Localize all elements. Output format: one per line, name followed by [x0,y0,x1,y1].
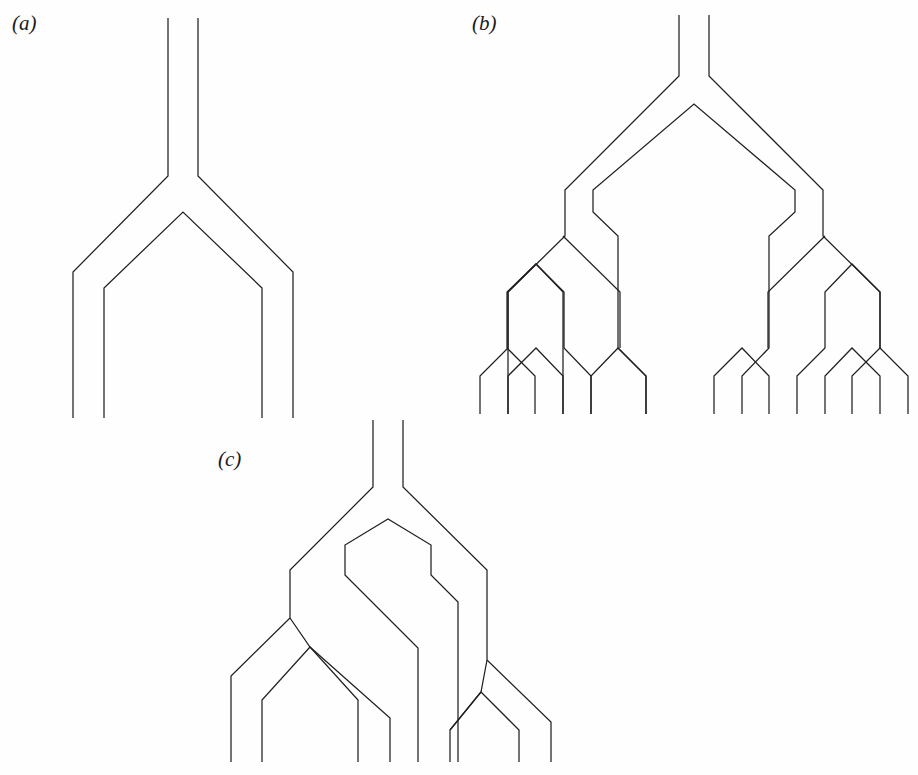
panel-label-c: (c) [218,447,241,471]
panel-b-gen1-inner-crotch [593,104,795,414]
panel-b-right-gen2-arch [797,264,880,414]
panel-c [231,420,551,762]
panel-label-b: (b) [472,11,497,35]
panel-c-left-sub-arch [290,618,390,762]
panel-a [73,18,293,418]
panel-c-outer-right-wall [403,420,551,762]
panel-c-right-subcrotch [450,692,519,762]
panel-c-gen1-inner-crotch [345,519,458,762]
panel-a-inner-crotch-wall [104,212,262,418]
panel-b [480,15,908,414]
panel-c-right-sub-arch [450,660,487,730]
panel-b-left-small-crotch-2 [591,348,646,414]
panel-a-outer-left-wall [73,18,168,418]
panel-c-outer-left-wall [231,420,373,762]
branching-networks-figure: (a) (b) (c) [0,0,918,775]
panel-b-outer-left-wall [480,15,679,414]
figure-root: (a) (b) (c) [0,0,918,775]
panel-c-left-subcrotch [262,647,358,762]
panel-b-left-gen2-outer [563,236,620,348]
panel-b-right-gen2-outer [768,236,825,348]
panel-b-outer-right-wall [709,15,908,414]
panel-a-outer-right-wall [198,18,293,418]
panel-label-a: (a) [12,11,37,35]
panel-b-left-gen2-arch [507,264,591,414]
